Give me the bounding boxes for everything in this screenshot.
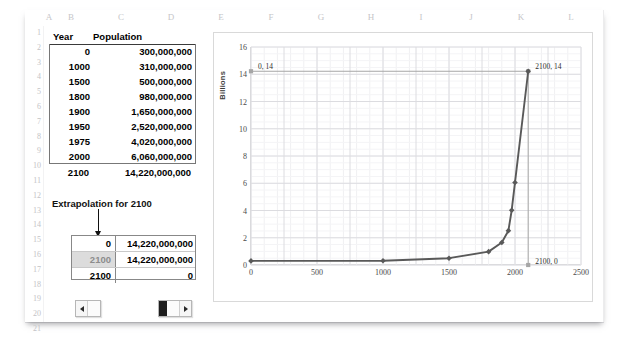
- row-header-16[interactable]: 16: [25, 250, 41, 259]
- row-header-17[interactable]: 17: [25, 265, 41, 274]
- row-header-21[interactable]: 21: [25, 324, 41, 333]
- cell-population: 310,000,000: [96, 59, 195, 74]
- chart-y-axis-label: Billions: [218, 71, 227, 100]
- chart-x-tick: 500: [311, 268, 323, 277]
- table-row[interactable]: 19502,520,000,000: [50, 119, 195, 134]
- column-header-j[interactable]: J: [457, 12, 485, 22]
- column-header-f[interactable]: F: [257, 12, 285, 22]
- chart-data-label: 0, 14: [258, 62, 273, 71]
- down-arrow-icon: [98, 209, 99, 233]
- table-row[interactable]: 19754,020,000,000: [50, 134, 195, 149]
- column-header-c[interactable]: C: [107, 12, 135, 22]
- row-header-8[interactable]: 8: [25, 132, 41, 141]
- cell-year: 2100: [72, 268, 116, 283]
- chart-data-point: [446, 255, 452, 261]
- cell-year: 0: [50, 44, 94, 59]
- scroll-thumb[interactable]: [159, 301, 167, 316]
- row-header-3[interactable]: 3: [25, 58, 41, 67]
- row-header-12[interactable]: 12: [25, 191, 41, 200]
- scrollbar-control-left[interactable]: [75, 300, 101, 317]
- extrapolation-table[interactable]: 014,220,000,000210014,220,000,00021000: [71, 235, 196, 280]
- chart-series-line: [251, 71, 528, 261]
- row-header-4[interactable]: 4: [25, 72, 41, 81]
- column-header-k[interactable]: K: [507, 12, 535, 22]
- chart-data-point: [248, 258, 254, 264]
- scroll-left-arrow-icon[interactable]: [76, 301, 88, 316]
- cell-year: 2100: [72, 252, 116, 267]
- cell-year: 0: [72, 236, 116, 251]
- row-header-18[interactable]: 18: [25, 280, 41, 289]
- chart-svg: [251, 47, 581, 265]
- scrollbar-control-right[interactable]: [158, 300, 192, 317]
- table-row[interactable]: 0300,000,000: [50, 44, 195, 59]
- row-header-1[interactable]: 1: [25, 28, 41, 37]
- spreadsheet-surface[interactable]: ABCDEFGHIJKL 123456789101112131415161718…: [25, 10, 604, 322]
- chart-x-tick: 1000: [375, 268, 391, 277]
- chart-x-tick: 2000: [507, 268, 523, 277]
- chart-y-tick: 0: [243, 261, 247, 270]
- column-header-year: Year: [53, 31, 73, 42]
- chart-x-tick: 2500: [573, 268, 589, 277]
- column-header-population: Population: [93, 31, 142, 42]
- cell-population: 2,520,000,000: [96, 119, 195, 134]
- cell-value: 14,220,000,000: [117, 236, 196, 251]
- column-header-i[interactable]: I: [407, 12, 435, 22]
- row-header-7[interactable]: 7: [25, 117, 41, 126]
- cell-value: 0: [117, 268, 196, 283]
- scroll-track-right[interactable]: [159, 301, 179, 316]
- extrapolation-row[interactable]: 014,220,000,000: [72, 236, 195, 252]
- chart-data-point: [526, 263, 530, 267]
- cell-year: 1500: [50, 74, 94, 89]
- table-row[interactable]: 1800980,000,000: [50, 89, 195, 104]
- column-header-e[interactable]: E: [207, 12, 235, 22]
- column-header-d[interactable]: D: [157, 12, 185, 22]
- table-row[interactable]: 1500500,000,000: [50, 74, 195, 89]
- row-header-19[interactable]: 19: [25, 294, 41, 303]
- chart-y-tick: 2: [243, 233, 247, 242]
- cell-population: 300,000,000: [96, 44, 195, 59]
- extrapolation-row[interactable]: 21000: [72, 268, 195, 283]
- chart-x-tick: 0: [249, 268, 253, 277]
- row-header-14[interactable]: 14: [25, 220, 41, 229]
- chart-y-tick: 16: [239, 43, 247, 52]
- chart-y-tick: 10: [239, 124, 247, 133]
- chart-data-point: [509, 207, 515, 213]
- extrapolated-data-row[interactable]: 2100 14,220,000,000: [49, 165, 196, 180]
- table-row[interactable]: 20006,060,000,000: [50, 149, 195, 164]
- table-row[interactable]: 1000310,000,000: [50, 59, 195, 74]
- population-data-table[interactable]: 0300,000,0001000310,000,0001500500,000,0…: [49, 44, 196, 164]
- column-header-b[interactable]: B: [57, 12, 85, 22]
- table-row[interactable]: 19001,650,000,000: [50, 104, 195, 119]
- chart-y-tick: 12: [239, 97, 247, 106]
- cell-year: 1900: [50, 104, 94, 119]
- chart-x-tick: 1500: [441, 268, 457, 277]
- row-header-2[interactable]: 2: [25, 43, 41, 52]
- chart-data-point: [249, 69, 253, 73]
- row-header-9[interactable]: 9: [25, 146, 41, 155]
- row-header-10[interactable]: 10: [25, 161, 41, 170]
- row-header-13[interactable]: 13: [25, 206, 41, 215]
- column-header-h[interactable]: H: [357, 12, 385, 22]
- cell-population: 4,020,000,000: [96, 134, 195, 149]
- extrapolation-label: Extrapolation for 2100: [52, 198, 152, 209]
- column-header-g[interactable]: G: [307, 12, 335, 22]
- row-header-20[interactable]: 20: [25, 309, 41, 318]
- cell-population: 1,650,000,000: [96, 104, 195, 119]
- cell-year: 1950: [50, 119, 94, 134]
- population-chart[interactable]: Billions 0246810121416050010001500200025…: [213, 32, 593, 302]
- row-header-11[interactable]: 11: [25, 176, 41, 185]
- row-header-6[interactable]: 6: [25, 102, 41, 111]
- extrapolated-year: 2100: [49, 165, 93, 180]
- extrapolated-population: 14,220,000,000: [95, 165, 194, 180]
- chart-data-point: [380, 258, 386, 264]
- row-header-15[interactable]: 15: [25, 235, 41, 244]
- row-header-5[interactable]: 5: [25, 87, 41, 96]
- scroll-track-left[interactable]: [88, 301, 100, 316]
- scroll-right-arrow-icon[interactable]: [179, 301, 191, 316]
- column-header-l[interactable]: L: [557, 12, 585, 22]
- spreadsheet-screenshot: ABCDEFGHIJKL 123456789101112131415161718…: [0, 0, 626, 343]
- cell-year: 1000: [50, 59, 94, 74]
- chart-y-tick: 4: [243, 206, 247, 215]
- chart-y-tick: 6: [243, 179, 247, 188]
- extrapolation-row[interactable]: 210014,220,000,000: [72, 252, 195, 268]
